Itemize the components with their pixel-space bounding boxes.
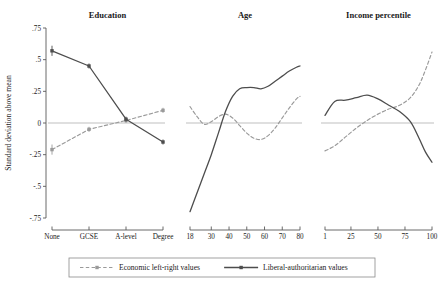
data-point-marker — [124, 118, 127, 121]
y-axis-tick-label: 0 — [37, 120, 41, 128]
x-axis-tick-label: 70 — [279, 233, 287, 241]
series-line-economic — [190, 96, 300, 139]
y-axis-tick-label: .75 — [32, 25, 41, 33]
x-axis-tick-label: 18 — [186, 233, 194, 241]
series-line-liberal — [52, 51, 163, 142]
y-axis-tick-label: -.25 — [30, 151, 42, 159]
series-line-economic — [52, 110, 163, 149]
x-axis-tick-label: 80 — [296, 233, 304, 241]
panel-1: EducationNoneGCSEA-levelDegree — [44, 10, 173, 241]
data-point-marker — [161, 140, 164, 143]
series-line-liberal — [190, 66, 300, 212]
legend-marker-economic — [95, 266, 98, 269]
series-line-economic — [325, 52, 432, 151]
panel-title: Age — [238, 10, 252, 20]
legend-label-economic: Economic left-right values — [119, 263, 200, 272]
panel-title: Income percentile — [346, 10, 411, 20]
data-point-marker — [50, 148, 53, 151]
x-axis-tick-label: 50 — [243, 233, 251, 241]
legend-marker-liberal — [239, 266, 242, 269]
legend: Economic left-right valuesLiberal-author… — [69, 258, 375, 277]
panel-2: Age18304050607080 — [186, 10, 304, 241]
y-axis-tick-label: .5 — [36, 56, 42, 64]
y-axis-title: Standard deviation above mean — [4, 75, 13, 171]
x-axis-tick-label: 50 — [374, 233, 382, 241]
y-axis-tick-label: -.5 — [33, 183, 41, 191]
data-point-marker — [161, 109, 164, 112]
panel-3: Income percentile1255075100 — [321, 10, 438, 241]
x-axis-tick-label: 60 — [261, 233, 269, 241]
x-axis-tick-label: 30 — [208, 233, 216, 241]
x-axis-tick-label: Degree — [153, 233, 174, 241]
multi-panel-line-chart: Standard deviation above mean.75.5.250-.… — [0, 0, 438, 283]
data-point-marker — [87, 64, 90, 67]
panel-title: Education — [89, 10, 127, 20]
x-axis-tick-label: 40 — [225, 233, 233, 241]
y-axis-tick-label: .25 — [32, 88, 41, 96]
legend-label-liberal: Liberal-authoritarian values — [263, 263, 348, 272]
x-axis-tick-label: A-level — [115, 233, 137, 241]
x-axis-tick-label: 25 — [347, 233, 355, 241]
x-axis-tick-label: 1 — [323, 233, 327, 241]
data-point-marker — [50, 49, 53, 52]
figure-container: Standard deviation above mean.75.5.250-.… — [0, 0, 438, 283]
x-axis-tick-label: GCSE — [80, 233, 99, 241]
y-axis-tick-label: -.75 — [30, 215, 42, 223]
x-axis-tick-label: 75 — [401, 233, 409, 241]
series-line-liberal — [325, 95, 432, 162]
data-point-marker — [87, 128, 90, 131]
x-axis-tick-label: 100 — [427, 233, 438, 241]
x-axis-tick-label: None — [44, 233, 60, 241]
